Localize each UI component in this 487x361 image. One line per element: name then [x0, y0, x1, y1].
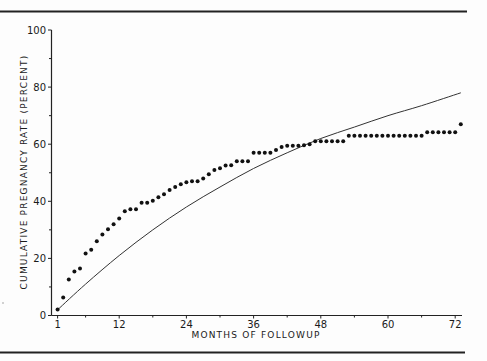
x-axis-title: MONTHS OF FOLLOWUP [191, 330, 320, 340]
x-tick-label: 24 [180, 319, 193, 330]
data-point [369, 134, 373, 138]
data-point [425, 130, 429, 134]
data-point [386, 134, 390, 138]
data-point [291, 144, 295, 148]
data-point [84, 252, 88, 256]
data-point [117, 216, 121, 220]
scan-speck [2, 302, 4, 304]
x-tick-label: 72 [449, 319, 462, 330]
data-point [89, 248, 93, 252]
data-point [212, 168, 216, 172]
data-point [106, 227, 110, 231]
data-point [364, 134, 368, 138]
data-point [184, 180, 188, 184]
data-point [431, 130, 435, 134]
y-axis-title: CUMULATIVE PREGNANCY RATE (PERCENT) [19, 55, 29, 290]
data-point [380, 134, 384, 138]
data-point [268, 151, 272, 155]
data-point [207, 172, 211, 176]
data-point [296, 144, 300, 148]
data-point [72, 270, 76, 274]
data-point [313, 139, 317, 143]
x-axis-ticks: 1122436486072 [54, 316, 461, 331]
x-tick-label: 1 [54, 319, 60, 330]
x-tick-label: 36 [247, 319, 260, 330]
chart-figure: 020406080100 1122436486072 MONTHS OF FOL… [0, 0, 487, 361]
data-point [246, 159, 250, 163]
data-point [324, 139, 328, 143]
data-point [156, 195, 160, 199]
x-tick-label: 12 [113, 319, 126, 330]
fitted-curve [58, 93, 461, 310]
data-point [140, 201, 144, 205]
data-point [218, 166, 222, 170]
data-point [459, 122, 463, 126]
data-point [61, 296, 65, 300]
data-point [414, 134, 418, 138]
data-point [100, 232, 104, 236]
data-point [442, 130, 446, 134]
data-point [341, 139, 345, 143]
data-point [336, 139, 340, 143]
data-point [196, 179, 200, 183]
data-point [352, 134, 356, 138]
data-point [173, 185, 177, 189]
data-point [403, 134, 407, 138]
data-point [274, 148, 278, 152]
data-point [123, 209, 127, 213]
data-point [252, 151, 256, 155]
data-point [168, 188, 172, 192]
data-point [420, 134, 424, 138]
data-point [67, 278, 71, 282]
data-point [134, 207, 138, 211]
data-point [78, 266, 82, 270]
data-point [453, 130, 457, 134]
data-point [280, 145, 284, 149]
data-point [201, 176, 205, 180]
data-point [392, 134, 396, 138]
scatter-chart: 020406080100 1122436486072 MONTHS OF FOL… [0, 0, 487, 361]
y-tick-label: 40 [33, 196, 46, 207]
data-point [151, 199, 155, 203]
y-tick-label: 80 [33, 82, 46, 93]
x-tick-label: 48 [314, 319, 327, 330]
data-point [235, 159, 239, 163]
data-point [179, 182, 183, 186]
data-point [229, 163, 233, 167]
data-point [224, 164, 228, 168]
data-point [358, 134, 362, 138]
data-point [375, 134, 379, 138]
data-point [257, 151, 261, 155]
data-point [448, 130, 452, 134]
data-point [145, 201, 149, 205]
y-tick-label: 0 [40, 310, 46, 321]
data-point [436, 130, 440, 134]
data-point [162, 192, 166, 196]
data-point [128, 207, 132, 211]
data-point [319, 139, 323, 143]
data-point [408, 134, 412, 138]
data-point [190, 179, 194, 183]
data-point [263, 151, 267, 155]
data-point [330, 139, 334, 143]
y-axis-ticks: 020406080100 [27, 25, 52, 322]
data-point [112, 222, 116, 226]
data-point [397, 134, 401, 138]
y-tick-label: 60 [33, 139, 46, 150]
data-point [302, 143, 306, 147]
x-tick-label: 60 [382, 319, 395, 330]
data-point [95, 239, 99, 243]
data-point [240, 159, 244, 163]
y-tick-label: 100 [27, 25, 46, 36]
data-point [285, 144, 289, 148]
data-point [347, 134, 351, 138]
y-tick-label: 20 [33, 253, 46, 264]
data-point [56, 308, 60, 312]
data-point [308, 142, 312, 146]
observed-data-points [56, 122, 463, 311]
